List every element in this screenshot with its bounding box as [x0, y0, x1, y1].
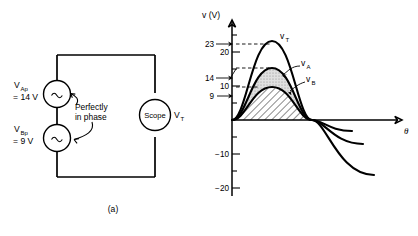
y-tick-label-10: 10 — [220, 82, 230, 91]
phase-annotation-line2: in phase — [75, 112, 107, 122]
curve-label-va-subscript: A — [307, 64, 311, 70]
source-b-subscript: Bp — [21, 130, 29, 136]
circuit-panel: Scope V T V Ap = 14 V V Bp = 9 V Perfect… — [0, 0, 209, 236]
y-tick-label-neg20: −20 — [215, 184, 229, 193]
y-tick-label-20: 20 — [220, 48, 230, 57]
source-a-symbol — [44, 81, 71, 108]
waveform-panel: v (V) 20 10 −10 −20 23 14 9 — [200, 0, 418, 236]
annotation-leader-lower — [74, 122, 93, 143]
source-b-symbol — [44, 125, 71, 152]
peak-label-14: 14 — [205, 74, 215, 83]
source-b-symbol-label: V — [14, 124, 20, 134]
curve-label-vt-symbol: v — [280, 31, 285, 41]
curve-label-vb-subscript: B — [312, 80, 316, 86]
waveform-chart: v (V) 20 10 −10 −20 23 14 9 — [200, 0, 418, 236]
curve-label-vt-subscript: T — [286, 37, 290, 43]
y-tick-label-neg10: −10 — [215, 150, 229, 159]
circuit-diagram: Scope V T V Ap = 14 V V Bp = 9 V Perfect… — [0, 0, 209, 236]
curve-label-vb-symbol: v — [306, 74, 311, 84]
scope-label: Scope — [144, 111, 166, 120]
figure-container: Scope V T V Ap = 14 V V Bp = 9 V Perfect… — [0, 0, 418, 236]
scope-voltage-label: V — [174, 110, 180, 120]
curve-label-va-symbol: v — [301, 58, 306, 68]
curve-label-vt: v T — [280, 31, 290, 43]
source-b-value: = 9 V — [13, 136, 34, 146]
source-a-value: = 14 V — [13, 92, 38, 102]
caption-a: (a) — [93, 204, 133, 214]
source-a-symbol-label: V — [14, 80, 20, 90]
scope-voltage-subscript: T — [181, 116, 185, 122]
peak-label-9: 9 — [209, 92, 214, 101]
x-axis-label: θ — [404, 126, 409, 136]
phase-annotation-line1: Perfectly — [75, 102, 108, 112]
peak-label-23: 23 — [205, 40, 215, 49]
y-axis-label: v (V) — [202, 10, 220, 20]
source-a-subscript: Ap — [21, 86, 29, 92]
